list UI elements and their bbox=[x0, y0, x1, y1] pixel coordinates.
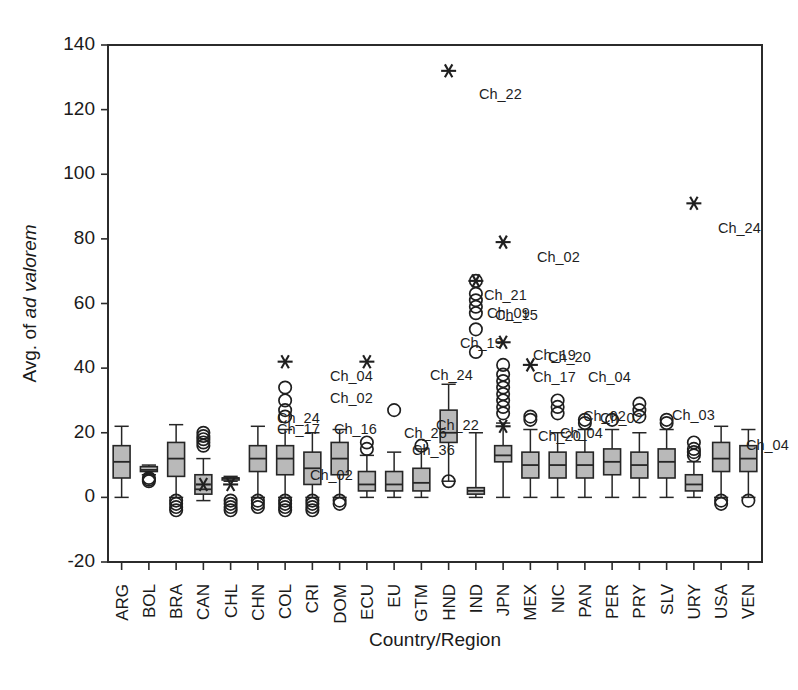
y-tick-label-40: 40 bbox=[74, 356, 95, 377]
extreme-point-HND bbox=[441, 64, 456, 77]
outlier-label: Ch_16 bbox=[334, 421, 377, 437]
y-tick-label-140: 140 bbox=[63, 33, 95, 54]
outlier-label: Ch_02 bbox=[537, 249, 580, 265]
outlier-label: Ch_03 bbox=[672, 407, 715, 423]
outlier-label: Ch_19 bbox=[460, 335, 503, 351]
outlier-point bbox=[470, 323, 482, 335]
extreme-point-COL bbox=[278, 355, 293, 368]
box-PRY bbox=[631, 433, 648, 498]
outlier-label: Ch_22 bbox=[479, 86, 522, 102]
y-tick-label-60: 60 bbox=[74, 292, 95, 313]
boxplot-figure: -20020406080100120140ARGBOLBRACANCHLCHNC… bbox=[0, 0, 798, 690]
y-axis-title: Avg. of ad valorem bbox=[19, 224, 40, 382]
x-tick-label-IND: IND bbox=[467, 584, 486, 613]
y-tick-label-0: 0 bbox=[84, 485, 95, 506]
extreme-point-URY bbox=[686, 197, 701, 210]
x-tick-label-MEX: MEX bbox=[521, 584, 540, 621]
box-CHL bbox=[222, 476, 239, 481]
x-tick-label-COL: COL bbox=[276, 584, 295, 619]
x-tick-label-PER: PER bbox=[603, 584, 622, 619]
chart-root: -20020406080100120140ARGBOLBRACANCHLCHNC… bbox=[0, 0, 798, 690]
x-tick-label-CRI: CRI bbox=[303, 584, 322, 613]
box-CHN bbox=[249, 426, 266, 497]
box-CRI bbox=[304, 433, 321, 498]
box-ECU bbox=[358, 455, 375, 497]
x-tick-label-DOM: DOM bbox=[331, 584, 350, 624]
outlier-label: Ch_24 bbox=[430, 367, 473, 383]
outlier-label: Ch_26 bbox=[404, 425, 447, 441]
box-DOM bbox=[331, 430, 348, 498]
x-tick-label-ARG: ARG bbox=[113, 584, 132, 621]
x-tick-label-EU: EU bbox=[385, 584, 404, 608]
x-tick-label-CHN: CHN bbox=[249, 584, 268, 621]
x-tick-label-GTM: GTM bbox=[412, 584, 431, 622]
y-tick-label-100: 100 bbox=[63, 162, 95, 183]
outlier-label: Ch_20 bbox=[548, 349, 591, 365]
box-EU bbox=[386, 452, 403, 497]
box-JPN bbox=[495, 423, 512, 497]
box-SLV bbox=[658, 430, 675, 498]
outlier-label: Ch_15 bbox=[495, 307, 538, 323]
outlier-label: Ch_02 bbox=[330, 390, 373, 406]
outlier-point bbox=[388, 404, 400, 416]
box-CAN bbox=[195, 459, 212, 501]
x-tick-label-BRA: BRA bbox=[167, 583, 186, 619]
x-tick-label-JPN: JPN bbox=[494, 584, 513, 616]
outlier-label: Ch_04 bbox=[746, 437, 789, 453]
x-tick-label-BOL: BOL bbox=[140, 584, 159, 618]
y-tick-label--20: -20 bbox=[68, 550, 95, 571]
y-tick-label-80: 80 bbox=[74, 227, 95, 248]
outlier-point bbox=[279, 381, 291, 393]
outlier-label: Ch_02 bbox=[600, 410, 643, 426]
outlier-label: Ch_17 bbox=[533, 369, 576, 385]
box-IND bbox=[467, 433, 484, 498]
x-tick-label-NIC: NIC bbox=[549, 584, 568, 613]
x-tick-label-USA: USA bbox=[712, 583, 731, 619]
outlier-label: Ch_36 bbox=[412, 442, 455, 458]
outlier-label: Ch_20 bbox=[538, 428, 581, 444]
x-tick-label-URY: URY bbox=[685, 584, 704, 620]
x-tick-label-CHL: CHL bbox=[222, 584, 241, 618]
x-axis-title: Country/Region bbox=[369, 629, 501, 650]
outlier-label: Ch_02 bbox=[310, 467, 353, 483]
extreme-point-JPN bbox=[496, 236, 511, 249]
x-tick-label-PRY: PRY bbox=[630, 584, 649, 619]
outlier-label: Ch_21 bbox=[484, 287, 527, 303]
box-PER bbox=[604, 430, 621, 498]
y-tick-label-120: 120 bbox=[63, 98, 95, 119]
x-tick-label-HND: HND bbox=[440, 584, 459, 621]
x-tick-label-SLV: SLV bbox=[658, 583, 677, 615]
outlier-label: Ch_04 bbox=[588, 369, 631, 385]
box-USA bbox=[713, 426, 730, 497]
y-tick-label-20: 20 bbox=[74, 421, 95, 442]
x-tick-label-ECU: ECU bbox=[358, 584, 377, 620]
box-MEX bbox=[522, 430, 539, 498]
x-tick-label-VEN: VEN bbox=[739, 584, 758, 619]
outlier-label: Ch_04 bbox=[330, 368, 373, 384]
box-URY bbox=[685, 462, 702, 498]
outlier-label: Ch_17 bbox=[277, 421, 320, 437]
box-BRA bbox=[168, 425, 185, 498]
x-tick-label-PAN: PAN bbox=[576, 584, 595, 618]
outlier-label: Ch_24 bbox=[718, 220, 761, 236]
x-tick-label-CAN: CAN bbox=[194, 584, 213, 620]
extreme-point-ECU bbox=[359, 355, 374, 368]
box-COL bbox=[277, 430, 294, 498]
box-ARG bbox=[113, 426, 130, 497]
